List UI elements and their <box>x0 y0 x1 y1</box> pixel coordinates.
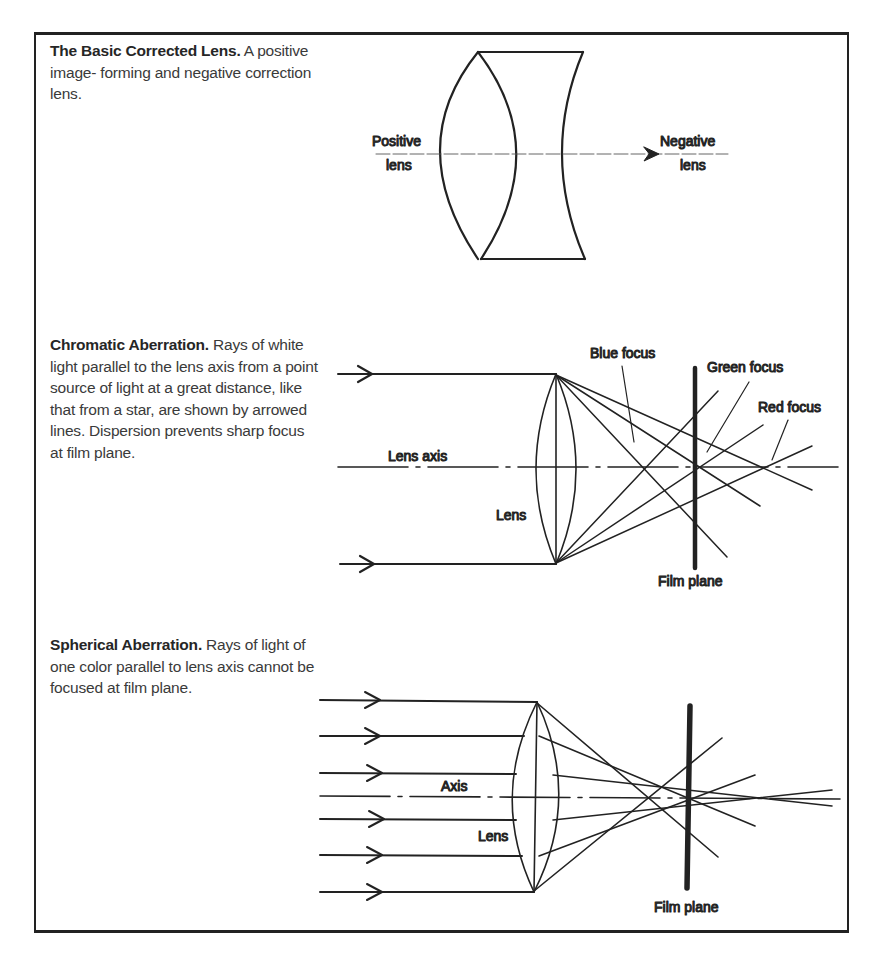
label-negative-lens: lens <box>680 157 706 173</box>
label-negative: Negative <box>660 133 715 149</box>
label-film-plane: Film plane <box>654 899 719 915</box>
diagram-canvas: Positive lens Negative lens <box>0 0 878 972</box>
label-green-focus: Green focus <box>707 359 783 375</box>
negative-lens-concave-surface <box>562 52 585 259</box>
label-film-plane: Film plane <box>658 573 723 589</box>
label-lens: Lens <box>478 828 508 844</box>
label-axis: Axis <box>441 778 467 794</box>
lens-right-surface <box>556 374 576 564</box>
label-lens-axis: Lens axis <box>388 448 447 464</box>
label-lens: Lens <box>496 507 526 523</box>
basic-lens-diagram <box>376 52 728 259</box>
positive-lens-right-surface <box>478 52 516 259</box>
film-plane <box>687 706 690 888</box>
label-red-focus: Red focus <box>758 399 821 415</box>
label-blue-focus: Blue focus <box>590 345 655 361</box>
arrow-icon <box>644 147 659 161</box>
label-positive: Positive <box>372 133 421 149</box>
lens-left-surface <box>536 374 556 564</box>
positive-lens-left-surface <box>440 52 478 259</box>
label-positive-lens: lens <box>386 157 412 173</box>
spherical-diagram <box>320 692 842 900</box>
chromatic-diagram <box>338 366 838 572</box>
